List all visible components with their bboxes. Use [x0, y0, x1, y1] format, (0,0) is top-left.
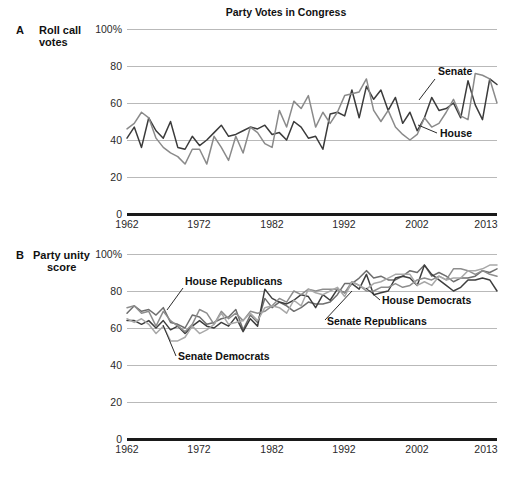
panel-a-xtick-1962: 1962: [115, 218, 139, 230]
panel-a-caption-line1: Roll call: [39, 24, 81, 36]
panel-a-ytick-20: 20: [110, 171, 122, 183]
panel-b-ytick-100: 100%: [95, 248, 122, 260]
panel-b-xtick-1982: 1982: [260, 443, 284, 455]
panel-a-ytick-40: 40: [110, 134, 122, 146]
panel-a-xtick-1972: 1972: [187, 218, 211, 230]
panel-a-xtick-2013: 2013: [474, 218, 498, 230]
panel-b-ytick-80: 80: [110, 285, 122, 297]
series-label-house: House: [440, 127, 472, 139]
panel-b-xtick-1992: 1992: [332, 443, 356, 455]
panel-b-ytick-60: 60: [110, 322, 122, 334]
panel-b-xtick-1962: 1962: [115, 443, 139, 455]
panel-b-xtick-1972: 1972: [187, 443, 211, 455]
panel-a-letter: A: [16, 24, 24, 36]
series-label-senate-democrats: Senate Democrats: [178, 350, 270, 362]
panel-b-caption-line1: Party unity: [33, 249, 91, 261]
figure-background: [0, 0, 511, 481]
panel-a-xtick-1992: 1992: [332, 218, 356, 230]
panel-b-letter: B: [16, 249, 24, 261]
series-label-house-democrats: House Democrats: [382, 294, 471, 306]
panel-a-ytick-100: 100%: [95, 23, 122, 35]
panel-b-caption-line2: score: [47, 261, 76, 273]
figure-title: Party Votes in Congress: [226, 6, 347, 18]
panel-a-caption-line2: votes: [39, 36, 68, 48]
panel-b-ytick-40: 40: [110, 359, 122, 371]
panel-b-xtick-2013: 2013: [474, 443, 498, 455]
series-label-senate-republicans: Senate Republicans: [327, 315, 427, 327]
series-label-senate: Senate: [438, 65, 473, 77]
party-votes-figure: Party Votes in Congress A Roll call vote…: [0, 0, 511, 481]
series-label-house-republicans: House Republicans: [185, 275, 283, 287]
panel-b-xtick-2002: 2002: [405, 443, 429, 455]
panel-a-xtick-2002: 2002: [405, 218, 429, 230]
panel-a-xtick-1982: 1982: [260, 218, 284, 230]
panel-b-ytick-20: 20: [110, 396, 122, 408]
panel-a-ytick-80: 80: [110, 60, 122, 72]
panel-a-ytick-60: 60: [110, 97, 122, 109]
